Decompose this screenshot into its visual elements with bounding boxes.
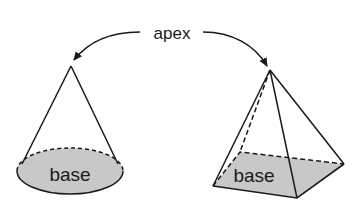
cone-base-label: base (49, 164, 90, 185)
apex-annotation: apex (74, 24, 267, 66)
apex-arrow-right (203, 32, 267, 66)
pyramid-right-edge (270, 70, 344, 164)
pyramid-hidden-lateral-edge (240, 70, 270, 152)
pyramid: base (213, 70, 344, 198)
cone-pyramid-diagram: apex base base (0, 0, 353, 216)
diagram-canvas: apex base base (0, 0, 353, 216)
cone: base (17, 66, 123, 194)
apex-arrow-left (74, 32, 140, 60)
pyramid-base-label: base (233, 165, 274, 186)
apex-label: apex (154, 24, 191, 43)
